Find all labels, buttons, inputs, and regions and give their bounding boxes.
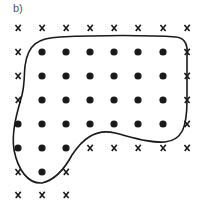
dot-marker: [134, 120, 141, 127]
cross-marker: [15, 25, 20, 31]
dot-marker: [62, 96, 69, 103]
dot-marker: [38, 72, 45, 79]
cross-marker: [15, 169, 20, 175]
cross-marker: [135, 145, 140, 151]
dot-marker: [134, 72, 141, 79]
cross-marker: [111, 25, 116, 31]
cross-marker: [135, 25, 140, 31]
cross-marker: [63, 169, 68, 175]
dot-marker: [38, 168, 45, 175]
cross-marker: [160, 145, 165, 151]
cross-marker: [15, 192, 20, 198]
dot-marker: [14, 144, 21, 151]
cross-marker: [184, 145, 189, 151]
cross-marker: [15, 73, 20, 79]
dot-marker: [110, 120, 117, 127]
dot-marker: [110, 96, 117, 103]
dot-marker: [159, 72, 166, 79]
dot-marker: [62, 144, 69, 151]
cross-marker: [87, 25, 92, 31]
cross-marker: [39, 25, 44, 31]
dot-marker: [159, 96, 166, 103]
cross-marker: [15, 49, 20, 55]
dot-marker: [38, 96, 45, 103]
dot-marker: [62, 48, 69, 55]
cross-marker: [87, 145, 92, 151]
dot-marker: [38, 120, 45, 127]
cross-marker: [111, 145, 116, 151]
dot-marker: [110, 48, 117, 55]
cross-marker: [39, 192, 44, 198]
dot-marker: [38, 144, 45, 151]
dot-marker: [159, 48, 166, 55]
cross-marker: [184, 25, 189, 31]
grid-points: [14, 25, 189, 198]
dot-marker: [38, 48, 45, 55]
cross-marker: [63, 25, 68, 31]
cross-marker: [160, 25, 165, 31]
dot-marker: [134, 48, 141, 55]
dot-marker: [86, 48, 93, 55]
dot-marker: [159, 120, 166, 127]
dot-marker: [110, 72, 117, 79]
dot-marker: [14, 120, 21, 127]
dot-marker: [86, 120, 93, 127]
dot-cross-diagram: [0, 0, 204, 210]
dot-marker: [86, 72, 93, 79]
dot-marker: [86, 96, 93, 103]
dot-marker: [62, 120, 69, 127]
dot-marker: [62, 72, 69, 79]
boundary-curve: [13, 36, 187, 184]
dot-marker: [134, 96, 141, 103]
cross-marker: [63, 192, 68, 198]
